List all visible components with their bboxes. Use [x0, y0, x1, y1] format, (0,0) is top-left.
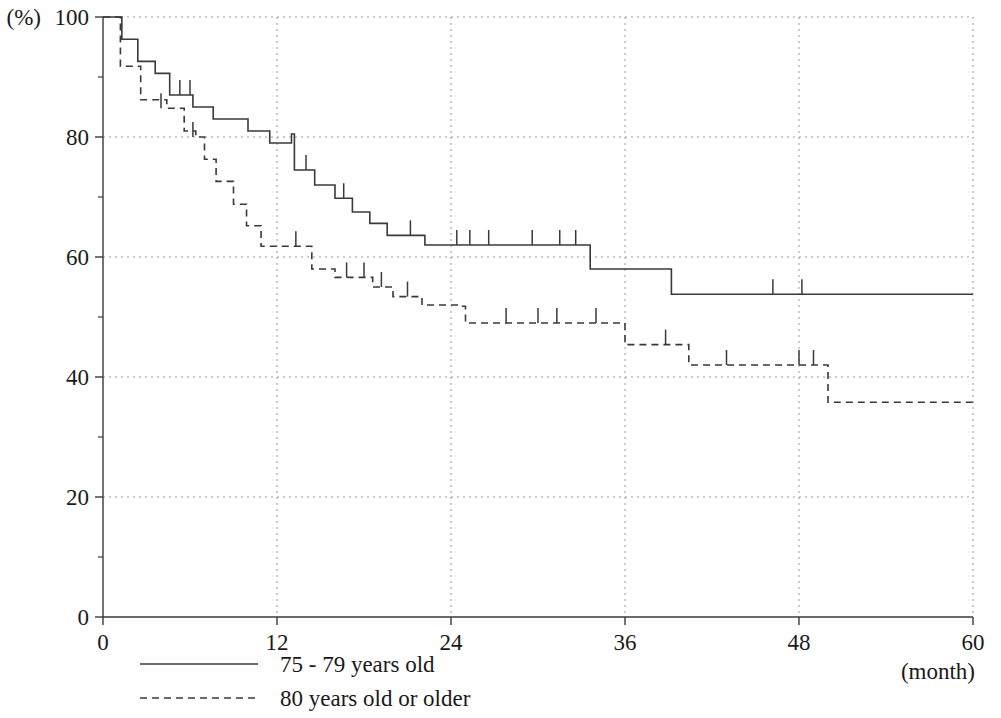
axis-unit-labels: (%)(month): [7, 5, 975, 684]
y-tick-label: 60: [66, 245, 89, 270]
y-tick-label: 20: [66, 485, 89, 510]
y-tick-label: 100: [55, 5, 90, 30]
survival-curve-chart: 02040608010001224364860 75 - 79 years ol…: [0, 0, 1001, 718]
y-tick-label: 0: [78, 605, 90, 630]
chart-legend: 75 - 79 years old80 years old or older: [140, 652, 471, 711]
y-axis-unit-label: (%): [7, 5, 41, 30]
data-series: [103, 17, 973, 402]
series-line-older-group: [103, 17, 973, 402]
x-tick-label: 48: [788, 630, 811, 655]
y-tick-label: 40: [66, 365, 89, 390]
y-tick-label: 80: [66, 125, 89, 150]
legend-label-younger-group: 75 - 79 years old: [280, 652, 435, 677]
kaplan-meier-figure: 02040608010001224364860 75 - 79 years ol…: [0, 0, 1001, 718]
axis-ticks: [95, 17, 973, 625]
x-tick-label: 60: [962, 630, 985, 655]
x-axis-unit-label: (month): [901, 659, 975, 684]
x-tick-label: 36: [614, 630, 637, 655]
legend-label-older-group: 80 years old or older: [280, 686, 471, 711]
x-tick-label: 24: [440, 630, 464, 655]
series-line-younger-group: [103, 17, 973, 294]
x-tick-label: 0: [97, 630, 109, 655]
tick-labels: 02040608010001224364860: [55, 5, 985, 655]
